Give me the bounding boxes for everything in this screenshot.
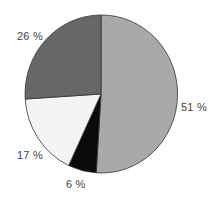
pie-slice-51-percent <box>96 15 177 173</box>
label-51-percent: 51 % <box>181 101 207 113</box>
pie-slice-26-percent <box>25 15 101 99</box>
label-26-percent: 26 % <box>17 30 43 42</box>
label-17-percent: 17 % <box>17 149 43 161</box>
label-6-percent: 6 % <box>66 178 86 190</box>
